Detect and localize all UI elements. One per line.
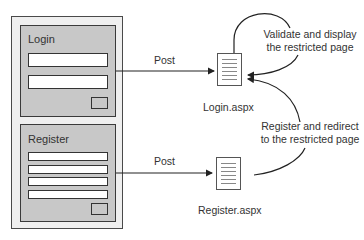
login-aspx-document-icon (217, 53, 242, 86)
register-aspx-document-icon (216, 157, 241, 190)
login-aspx-label: Login.aspx (203, 101, 254, 114)
register-annotation-line1: Register and redirect (256, 120, 364, 133)
post-label-login: Post (154, 54, 175, 67)
register-annotation-line2: to the restricted page (256, 133, 364, 146)
validate-annotation-line2: the restricted page (256, 41, 364, 54)
validate-annotation: Validate and display the restricted page (256, 28, 364, 54)
post-label-register: Post (154, 155, 175, 168)
register-annotation: Register and redirect to the restricted … (256, 120, 364, 146)
validate-annotation-line1: Validate and display (256, 28, 364, 41)
register-aspx-label: Register.aspx (198, 204, 262, 217)
